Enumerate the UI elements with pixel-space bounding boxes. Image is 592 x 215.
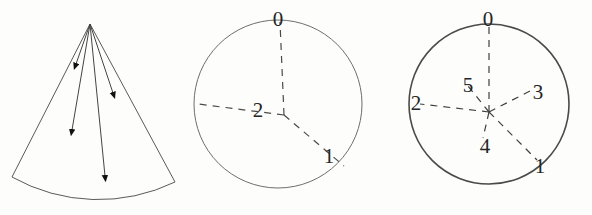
- cone-outline: [12, 24, 175, 200]
- radius-1-line: [489, 112, 537, 160]
- radii-group: [420, 26, 537, 160]
- radius-label-0: 0: [483, 7, 494, 31]
- radius-1-line: [284, 115, 344, 166]
- panel-circle-six-radii: 0 1 2 3 4 5: [390, 0, 592, 215]
- panel-circle-three-radii: 0 1 2: [192, 0, 390, 215]
- panel-cone: [0, 0, 196, 215]
- radius-3-line: [489, 90, 532, 112]
- cone-arrow-3: [72, 24, 90, 130]
- cone-sector-path: [12, 24, 175, 200]
- cone-arrow-1: [76, 24, 90, 64]
- radius-label-1: 1: [535, 154, 546, 178]
- radius-label-4: 4: [480, 134, 491, 158]
- figure-root: 0 1 2 0 1 2 3 4 5: [0, 0, 592, 215]
- radius-2-line: [198, 104, 284, 115]
- radius-0-line: [280, 22, 284, 115]
- radius-label-2: 2: [411, 91, 422, 115]
- radius-2-line: [420, 104, 489, 112]
- radius-label-0: 0: [273, 7, 284, 31]
- radius-label-2: 2: [253, 98, 264, 122]
- radius-label-3: 3: [533, 80, 544, 104]
- radius-label-1: 1: [324, 144, 335, 168]
- circle-outline: [194, 20, 362, 188]
- radius-label-5: 5: [463, 73, 474, 97]
